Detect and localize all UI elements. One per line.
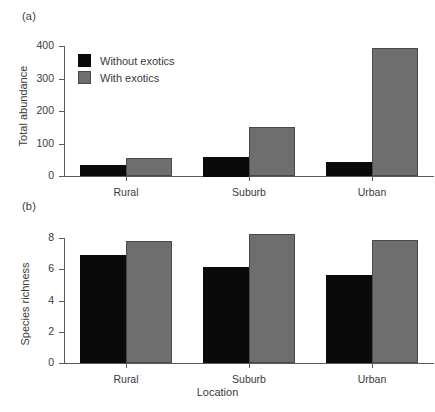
bar [326,275,372,363]
panel-a: (a) Total abundance 0100200300400RuralSu… [0,0,435,200]
y-tick-label: 100 [14,137,54,149]
legend-item: With exotics [78,69,175,86]
bar [80,165,126,176]
x-tick-mark [249,363,250,368]
panel-b-y-axis [64,238,65,364]
y-tick-label: 6 [14,262,54,274]
x-tick-label: Urban [327,373,417,385]
panel-b: (b) Species richness Location 02468Rural… [0,190,435,412]
bar [249,234,295,363]
bar [126,158,172,176]
legend-swatch-with_exotics [78,71,91,84]
y-tick-mark [59,176,64,177]
panel-b-label: (b) [22,200,36,212]
y-tick-label: 8 [14,231,54,243]
bar [372,48,418,176]
legend-label: Without exotics [100,55,175,67]
y-tick-mark [59,332,64,333]
legend-item: Without exotics [78,52,175,69]
y-tick-mark [59,269,64,270]
x-tick-label: Rural [81,373,171,385]
panel-a-y-axis [64,46,65,177]
y-tick-mark [59,144,64,145]
x-tick-label: Suburb [204,373,294,385]
bar [372,240,418,363]
y-tick-label: 0 [14,356,54,368]
y-tick-mark [59,79,64,80]
bar [80,255,126,363]
bar [326,162,372,176]
y-tick-label: 200 [14,104,54,116]
x-tick-mark [372,363,373,368]
y-tick-label: 0 [14,169,54,181]
y-tick-mark [59,301,64,302]
y-tick-label: 2 [14,325,54,337]
bar [203,157,249,177]
legend-swatch-without_exotics [78,54,91,67]
x-tick-mark [126,176,127,181]
bar [249,127,295,176]
y-tick-label: 300 [14,72,54,84]
y-tick-label: 400 [14,39,54,51]
y-tick-mark [59,46,64,47]
figure-container: (a) Total abundance 0100200300400RuralSu… [0,0,435,412]
x-tick-mark [249,176,250,181]
panel-b-plot-area: 02468RuralSuburbUrban [64,238,434,363]
y-tick-label: 4 [14,294,54,306]
x-tick-mark [126,363,127,368]
y-tick-mark [59,111,64,112]
bar [126,241,172,363]
bar [203,267,249,363]
panel-b-x-axis-label: Location [0,386,435,398]
panel-a-label: (a) [22,10,36,22]
legend-label: With exotics [100,72,159,84]
y-tick-mark [59,238,64,239]
y-tick-mark [59,363,64,364]
legend: Without exoticsWith exotics [78,52,175,86]
x-tick-mark [372,176,373,181]
